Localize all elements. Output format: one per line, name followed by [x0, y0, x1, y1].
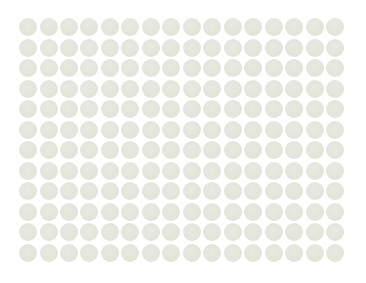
- circle-dot: [60, 18, 78, 36]
- circle-dot: [101, 59, 119, 77]
- circle-dot: [121, 223, 139, 241]
- circle-dot: [40, 18, 58, 36]
- circle-dot: [265, 18, 283, 36]
- circle-dot: [80, 39, 98, 57]
- circle-dot: [162, 18, 180, 36]
- circle-dot: [285, 39, 303, 57]
- circle-dot: [203, 203, 221, 221]
- circle-dot: [19, 244, 37, 262]
- circle-dot: [326, 203, 344, 221]
- circle-dot: [19, 203, 37, 221]
- circle-dot: [142, 100, 160, 118]
- circle-dot: [142, 18, 160, 36]
- circle-dot: [306, 223, 324, 241]
- circle-dot: [60, 162, 78, 180]
- circle-dot: [80, 18, 98, 36]
- circle-dot: [101, 141, 119, 159]
- circle-dot: [121, 141, 139, 159]
- circle-dot: [142, 223, 160, 241]
- circle-dot: [326, 100, 344, 118]
- circle-dot: [203, 39, 221, 57]
- circle-dot: [244, 182, 262, 200]
- circle-dot: [142, 182, 160, 200]
- circle-dot: [40, 121, 58, 139]
- circle-dot: [162, 39, 180, 57]
- circle-dot: [40, 182, 58, 200]
- circle-dot: [101, 223, 119, 241]
- circle-dot: [19, 162, 37, 180]
- circle-dot: [162, 203, 180, 221]
- circle-dot: [142, 244, 160, 262]
- circle-dot: [80, 182, 98, 200]
- circle-dot: [326, 141, 344, 159]
- circle-dot: [265, 203, 283, 221]
- circle-dot: [224, 100, 242, 118]
- circle-dot: [19, 100, 37, 118]
- circle-dot: [183, 141, 201, 159]
- circle-dot: [306, 203, 324, 221]
- circle-dot: [121, 80, 139, 98]
- circle-dot: [244, 18, 262, 36]
- circle-dot: [224, 18, 242, 36]
- circle-dot: [142, 203, 160, 221]
- circle-dot: [183, 182, 201, 200]
- circle-dot: [80, 80, 98, 98]
- circle-dot: [40, 203, 58, 221]
- circle-dot: [142, 80, 160, 98]
- circle-dot: [40, 59, 58, 77]
- circle-dot: [101, 182, 119, 200]
- circle-dot: [60, 80, 78, 98]
- circle-dot: [326, 162, 344, 180]
- circle-dot: [224, 39, 242, 57]
- circle-dot: [162, 244, 180, 262]
- circle-dot: [162, 162, 180, 180]
- circle-dot: [101, 18, 119, 36]
- circle-dot: [40, 39, 58, 57]
- circle-dot: [19, 141, 37, 159]
- circle-dot: [306, 121, 324, 139]
- circle-dot: [285, 223, 303, 241]
- circle-dot: [244, 121, 262, 139]
- circle-dot: [162, 59, 180, 77]
- circle-dot: [121, 121, 139, 139]
- circle-dot: [203, 182, 221, 200]
- circle-dot: [19, 121, 37, 139]
- circle-dot: [162, 80, 180, 98]
- circle-dot: [60, 59, 78, 77]
- circle-dot: [285, 203, 303, 221]
- circle-dot: [60, 203, 78, 221]
- circle-dot: [121, 244, 139, 262]
- circle-dot: [244, 59, 262, 77]
- circle-dot: [306, 18, 324, 36]
- circle-dot: [162, 121, 180, 139]
- circle-dot: [80, 59, 98, 77]
- circle-dot: [224, 162, 242, 180]
- circle-dot: [183, 59, 201, 77]
- circle-dot: [142, 39, 160, 57]
- circle-dot: [285, 80, 303, 98]
- circle-dot: [19, 18, 37, 36]
- circle-dot: [101, 39, 119, 57]
- circle-dot: [101, 121, 119, 139]
- circle-dot: [40, 244, 58, 262]
- circle-dot: [40, 141, 58, 159]
- circle-dot: [203, 80, 221, 98]
- circle-dot: [306, 39, 324, 57]
- circle-dot: [265, 100, 283, 118]
- circle-dot: [183, 223, 201, 241]
- circle-dot: [101, 100, 119, 118]
- circle-dot: [306, 80, 324, 98]
- circle-dot: [306, 59, 324, 77]
- circle-dot: [19, 59, 37, 77]
- circle-dot: [40, 162, 58, 180]
- circle-dot: [142, 162, 160, 180]
- circle-dot: [162, 223, 180, 241]
- circle-dot: [244, 39, 262, 57]
- circle-dot: [183, 121, 201, 139]
- circle-dot: [265, 244, 283, 262]
- circle-dot: [19, 223, 37, 241]
- circle-dot: [265, 223, 283, 241]
- circle-dot: [326, 121, 344, 139]
- circle-dot: [326, 39, 344, 57]
- circle-dot: [40, 100, 58, 118]
